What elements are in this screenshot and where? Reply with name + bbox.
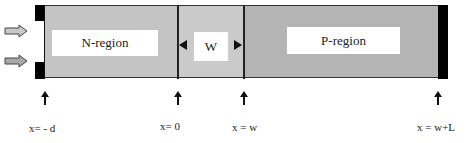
p-region-text: P-region — [321, 33, 366, 49]
p-region-label: P-region — [287, 27, 400, 54]
width-arrows — [178, 38, 243, 52]
n-region-text: N-region — [82, 35, 129, 51]
marker-arrow-neg-d-icon — [40, 91, 50, 105]
incident-arrow-top-icon — [5, 25, 27, 37]
position-label-x0: x= 0 — [160, 120, 180, 132]
marker-arrow-x0-icon — [173, 91, 183, 105]
marker-arrow-xw-icon — [239, 91, 249, 105]
arrow-left-icon — [179, 40, 187, 50]
position-label-xw: x = w — [232, 121, 257, 133]
back-contact — [438, 5, 448, 79]
incident-arrows — [4, 24, 30, 70]
junction-line-xw — [243, 5, 245, 79]
front-surface-line — [44, 5, 45, 79]
n-region-label: N-region — [52, 30, 158, 56]
marker-arrow-xwl-icon — [433, 91, 443, 105]
position-label-xwl: x = w+L — [417, 121, 455, 133]
position-label-neg-d: x= - d — [29, 122, 55, 134]
incident-arrow-bottom-icon — [5, 55, 27, 67]
arrow-right-icon — [234, 40, 242, 50]
